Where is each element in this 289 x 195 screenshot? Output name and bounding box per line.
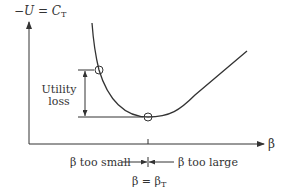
- optimum-label: β = βT: [132, 175, 167, 189]
- bracket-label-loss: loss: [48, 95, 70, 108]
- beta-too-small-label: β too small: [70, 156, 131, 169]
- y-axis-label: −U = CT: [14, 4, 67, 19]
- utility-curve: [92, 23, 247, 117]
- utility-loss-diagram: −U = CT β Utility loss β too small β too…: [0, 0, 289, 195]
- x-axis-label: β: [268, 137, 275, 151]
- beta-too-large-label: β too large: [178, 156, 238, 169]
